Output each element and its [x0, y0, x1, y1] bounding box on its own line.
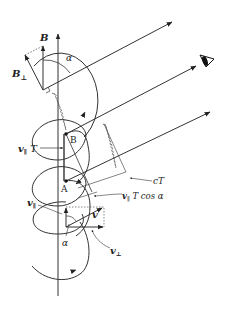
- eye-icon: [200, 55, 214, 67]
- label-alpha-bottom: α: [62, 238, 68, 248]
- helix-connect-2: [66, 181, 90, 236]
- label-v-par-t-cos-alpha: v∥ T cos α: [122, 191, 164, 202]
- diagram-svg: B α B⊥ B v∥ T A cT v∥ T cos α v∥ v α v⊥: [0, 0, 228, 314]
- label-v-par-t: v∥ T: [18, 143, 38, 155]
- alpha-arc-bottom: [66, 216, 76, 221]
- label-v: v: [92, 209, 98, 220]
- helix-loop-2: [32, 167, 86, 206]
- label-alpha-top: α: [66, 53, 72, 63]
- ray-middle: [66, 66, 196, 134]
- label-v-par: v∥: [27, 197, 36, 209]
- helix-loop-1: [32, 120, 86, 160]
- label-b-top: B: [39, 32, 48, 43]
- v-perp-label-pointer: [92, 230, 110, 248]
- pulse-top: [52, 93, 66, 130]
- label-b-perp: B⊥: [11, 68, 27, 82]
- label-v-perp: v⊥: [110, 245, 122, 257]
- label-point-b: B: [70, 135, 77, 145]
- dim-vpar-cos-pointer: [94, 194, 122, 196]
- ray-top: [43, 22, 172, 90]
- label-ct: cT: [153, 176, 165, 186]
- dim-ct-pointer: [130, 178, 152, 181]
- label-point-a: A: [60, 184, 68, 194]
- b-dotted-guide: [25, 46, 43, 55]
- helix-diagram: B α B⊥ B v∥ T A cT v∥ T cos α v∥ v α v⊥: [0, 0, 228, 314]
- helix-top-arrow: [82, 112, 85, 118]
- point-a: [64, 179, 68, 183]
